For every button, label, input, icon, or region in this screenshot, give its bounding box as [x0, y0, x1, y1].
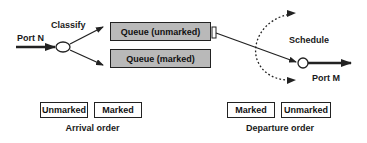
- departure-packet-unmarked: Unmarked: [281, 102, 331, 118]
- output-port-label: Port M: [312, 74, 340, 83]
- classifier-node: [56, 42, 70, 52]
- scheduler-switch: [212, 27, 216, 38]
- input-port-label: Port N: [17, 34, 44, 43]
- scheduler-label: Schedule: [289, 36, 329, 45]
- departure-order-caption: Departure order: [240, 123, 320, 133]
- arrival-order-caption: Arrival order: [60, 123, 125, 133]
- output-node: [298, 58, 308, 68]
- queue-unmarked: Queue (unmarked): [110, 22, 211, 41]
- queue-marked: Queue (marked): [110, 49, 211, 68]
- arrival-packet-unmarked: Unmarked: [40, 102, 88, 118]
- schedule-arc-icon: [256, 14, 292, 80]
- departure-packet-marked: Marked: [227, 102, 275, 118]
- classifier-label: Classify: [51, 21, 86, 30]
- branch-arrow-marked: [70, 50, 103, 65]
- arrival-packet-marked: Marked: [94, 102, 142, 118]
